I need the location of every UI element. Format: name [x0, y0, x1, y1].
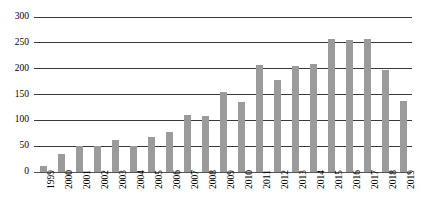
- bar-slot: [214, 17, 232, 172]
- bar-slot: [70, 17, 88, 172]
- bar-slot: [106, 17, 124, 172]
- x-tick-label-2004: 2004: [137, 170, 147, 206]
- bar: [112, 140, 119, 172]
- bar-chart: 050100150200250300 199920002001200220032…: [0, 0, 422, 208]
- bar-slot: [358, 17, 376, 172]
- bar-slot: [232, 17, 250, 172]
- y-tick-label-50: 50: [0, 141, 29, 151]
- bar: [202, 116, 209, 172]
- bar: [274, 80, 281, 172]
- y-axis: 050100150200250300: [0, 0, 34, 208]
- x-tick-label-2017: 2017: [371, 170, 381, 206]
- bar-slot: [124, 17, 142, 172]
- bar: [292, 66, 299, 172]
- bar-slot: [52, 17, 70, 172]
- bar: [364, 39, 371, 172]
- bar: [328, 39, 335, 172]
- bar-slot: [142, 17, 160, 172]
- bar: [130, 146, 137, 172]
- bar-slot: [88, 17, 106, 172]
- x-tick-label-2005: 2005: [155, 170, 165, 206]
- bar-slot: [196, 17, 214, 172]
- bar: [184, 115, 191, 172]
- x-tick-label-2001: 2001: [83, 170, 93, 206]
- x-tick-label-2019: 2019: [407, 170, 417, 206]
- bar-slot: [34, 17, 52, 172]
- bar: [346, 40, 353, 172]
- bar: [166, 132, 173, 172]
- x-tick-label-2014: 2014: [317, 170, 327, 206]
- bar-slot: [286, 17, 304, 172]
- y-tick-label-200: 200: [0, 64, 29, 74]
- x-tick-label-2011: 2011: [263, 170, 273, 206]
- bar-slot: [340, 17, 358, 172]
- x-tick-label-2009: 2009: [227, 170, 237, 206]
- bar-slot: [376, 17, 394, 172]
- x-tick-label-2002: 2002: [101, 170, 111, 206]
- bar-slot: [304, 17, 322, 172]
- y-tick-label-100: 100: [0, 115, 29, 125]
- bar-slot: [178, 17, 196, 172]
- bar: [310, 64, 317, 173]
- bar-slot: [394, 17, 412, 172]
- x-tick-label-2010: 2010: [245, 170, 255, 206]
- x-tick-label-2006: 2006: [173, 170, 183, 206]
- bar-slot: [250, 17, 268, 172]
- plot-area: [34, 17, 412, 172]
- bar: [76, 146, 83, 172]
- y-tick-label-0: 0: [0, 167, 29, 177]
- bar: [220, 92, 227, 172]
- x-tick-label-2015: 2015: [335, 170, 345, 206]
- bar: [94, 146, 101, 172]
- y-tick-label-150: 150: [0, 90, 29, 100]
- x-tick-label-2012: 2012: [281, 170, 291, 206]
- x-tick-label-2003: 2003: [119, 170, 129, 206]
- bar: [382, 70, 389, 172]
- x-tick-label-2016: 2016: [353, 170, 363, 206]
- x-tick-label-2007: 2007: [191, 170, 201, 206]
- bar-slot: [322, 17, 340, 172]
- bar-slot: [160, 17, 178, 172]
- bar: [256, 65, 263, 172]
- x-tick-label-2008: 2008: [209, 170, 219, 206]
- bar: [148, 137, 155, 172]
- x-tick-label-2013: 2013: [299, 170, 309, 206]
- bar: [238, 102, 245, 172]
- x-tick-label-1999: 1999: [47, 170, 57, 206]
- bar: [400, 101, 407, 172]
- y-tick-label-250: 250: [0, 38, 29, 48]
- x-tick-label-2000: 2000: [65, 170, 75, 206]
- y-tick-label-300: 300: [0, 12, 29, 22]
- bar-slot: [268, 17, 286, 172]
- x-axis: 1999200020012002200320042005200620072008…: [34, 172, 412, 208]
- x-tick-label-2018: 2018: [389, 170, 399, 206]
